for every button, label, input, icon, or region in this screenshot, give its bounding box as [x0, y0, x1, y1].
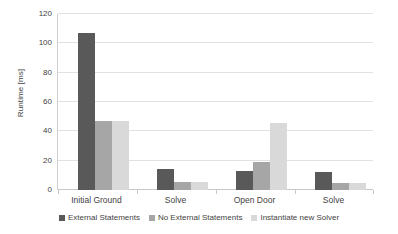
x-axis-tick-labels: Initial GroundSolveOpen DoorSolve: [57, 194, 373, 208]
legend-swatch-icon: [149, 215, 155, 221]
y-tick-label: 60: [26, 97, 52, 107]
bar-group-inner: [295, 14, 380, 190]
legend-item[interactable]: No External Statements: [149, 213, 242, 223]
bar-group-inner: [137, 14, 222, 190]
y-tick-label: 40: [26, 126, 52, 136]
bar[interactable]: [191, 182, 208, 190]
bar[interactable]: [270, 123, 287, 190]
bar-group: [295, 14, 374, 190]
y-tick-label: 80: [26, 68, 52, 78]
chart-legend: External StatementsNo External Statement…: [0, 210, 398, 226]
y-tick-label: 20: [26, 156, 52, 166]
x-tick-label: Solve: [294, 194, 373, 206]
bar-series-layer: [58, 14, 373, 190]
legend-item[interactable]: Instantiate new Solver: [251, 213, 339, 223]
legend-label: No External Statements: [158, 213, 242, 223]
legend-swatch-icon: [251, 215, 257, 221]
y-tick-label: 0: [26, 185, 52, 195]
bar-group-inner: [58, 14, 143, 190]
y-tick-label: 100: [26, 38, 52, 48]
bar-group: [137, 14, 216, 190]
x-tick-label: Solve: [136, 194, 215, 206]
bar[interactable]: [174, 182, 191, 190]
bar-chart: Runtime [ms] 020406080100120 Initial Gro…: [0, 0, 398, 234]
plot-area: [57, 14, 373, 190]
legend-item[interactable]: External Statements: [59, 213, 140, 223]
x-tick-label: Initial Ground: [57, 194, 136, 206]
y-tick-label: 120: [26, 9, 52, 19]
bar-group: [216, 14, 295, 190]
x-tick-label: Open Door: [215, 194, 294, 206]
y-axis-tick-labels: 020406080100120: [26, 9, 52, 191]
legend-label: Instantiate new Solver: [260, 213, 339, 223]
bar[interactable]: [332, 183, 349, 190]
bar[interactable]: [112, 121, 129, 190]
bar-group: [58, 14, 137, 190]
category-separator: [373, 190, 374, 194]
bar[interactable]: [236, 171, 253, 190]
legend-swatch-icon: [59, 215, 65, 221]
bar[interactable]: [315, 172, 332, 190]
bar[interactable]: [157, 169, 174, 190]
bar[interactable]: [78, 33, 95, 190]
legend-label: External Statements: [68, 213, 140, 223]
bar[interactable]: [95, 121, 112, 190]
bar[interactable]: [253, 162, 270, 190]
bar[interactable]: [349, 183, 366, 190]
bar-group-inner: [216, 14, 301, 190]
